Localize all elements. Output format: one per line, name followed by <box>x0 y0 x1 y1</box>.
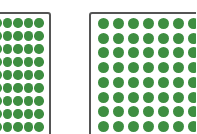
green-dot <box>158 18 169 29</box>
green-dot <box>34 31 44 41</box>
green-dot <box>158 77 169 88</box>
green-dot <box>24 44 34 54</box>
green-dot <box>34 44 44 54</box>
green-dot <box>158 33 169 44</box>
green-dot <box>113 121 124 132</box>
green-dot <box>188 47 197 58</box>
green-dot <box>158 121 169 132</box>
green-dot <box>128 47 139 58</box>
green-dot <box>3 31 13 41</box>
green-dot <box>143 106 154 117</box>
green-dot <box>13 109 23 119</box>
green-dot <box>34 57 44 67</box>
green-dot <box>143 77 154 88</box>
green-dot <box>113 33 124 44</box>
green-dot <box>158 47 169 58</box>
green-dot <box>13 96 23 106</box>
green-dot <box>24 109 34 119</box>
green-dot <box>34 18 44 28</box>
green-dot <box>34 96 44 106</box>
green-dot <box>34 83 44 93</box>
green-dot <box>143 62 154 73</box>
green-dot <box>188 18 197 29</box>
green-dot <box>98 47 109 58</box>
green-dot <box>128 62 139 73</box>
green-dot <box>13 57 23 67</box>
green-dot <box>98 33 109 44</box>
green-dot <box>3 83 13 93</box>
green-dot <box>173 92 184 103</box>
green-dot <box>13 18 23 28</box>
green-dot <box>143 18 154 29</box>
green-dot <box>24 18 34 28</box>
green-dot <box>113 62 124 73</box>
green-dot <box>24 31 34 41</box>
green-dot <box>98 18 109 29</box>
green-dot <box>173 62 184 73</box>
green-dot <box>3 70 13 80</box>
green-dot <box>3 57 13 67</box>
green-dot <box>113 18 124 29</box>
green-dot <box>188 106 197 117</box>
green-dot <box>143 33 154 44</box>
green-dot <box>113 92 124 103</box>
green-dot <box>128 33 139 44</box>
green-dot <box>173 18 184 29</box>
green-dot <box>158 92 169 103</box>
green-dot <box>158 62 169 73</box>
green-dot <box>128 77 139 88</box>
green-dot <box>13 122 23 132</box>
green-dot <box>188 62 197 73</box>
green-dot <box>173 77 184 88</box>
green-dot <box>173 33 184 44</box>
green-dot <box>128 92 139 103</box>
green-dot <box>188 33 197 44</box>
green-dot <box>143 92 154 103</box>
green-dot <box>13 44 23 54</box>
green-dot <box>188 77 197 88</box>
green-dot <box>24 83 34 93</box>
green-dot <box>34 122 44 132</box>
green-dot <box>98 62 109 73</box>
green-dot <box>128 106 139 117</box>
green-dot <box>98 77 109 88</box>
green-dot <box>188 92 197 103</box>
green-dot <box>128 18 139 29</box>
green-dot <box>13 31 23 41</box>
green-dot <box>158 106 169 117</box>
green-dot <box>128 121 139 132</box>
green-dot <box>173 106 184 117</box>
green-dot <box>173 47 184 58</box>
green-dot <box>3 96 13 106</box>
green-dot <box>3 122 13 132</box>
green-dot <box>24 70 34 80</box>
green-dot <box>98 106 109 117</box>
green-dot <box>143 47 154 58</box>
green-dot <box>98 92 109 103</box>
green-dot <box>13 70 23 80</box>
green-dot <box>34 109 44 119</box>
green-dot <box>143 121 154 132</box>
green-dot <box>3 109 13 119</box>
green-dot <box>173 121 184 132</box>
green-dot <box>113 47 124 58</box>
green-dot <box>34 70 44 80</box>
green-dot <box>3 44 13 54</box>
green-dot <box>98 121 109 132</box>
green-dot <box>188 121 197 132</box>
green-dot <box>24 122 34 132</box>
green-dot <box>113 106 124 117</box>
green-dot <box>113 77 124 88</box>
green-dot <box>13 83 23 93</box>
green-dot <box>3 18 13 28</box>
green-dot <box>24 57 34 67</box>
green-dot <box>24 96 34 106</box>
